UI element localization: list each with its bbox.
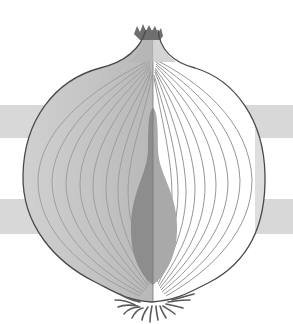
onion-illustration: [0, 0, 293, 324]
